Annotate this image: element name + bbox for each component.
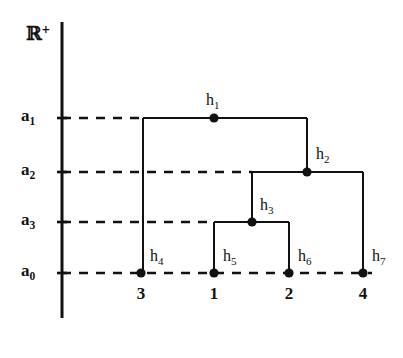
node-label-subscript: 6 [306, 255, 312, 267]
leaf-label-3: 3 [131, 285, 151, 302]
node-label-h1: h1 [206, 92, 220, 111]
node-label-subscript: 3 [268, 204, 274, 216]
node-dot-h3 [247, 217, 256, 226]
node-label-base: h [298, 247, 306, 264]
node-label-base: h [223, 247, 231, 264]
dendrogram-canvas [0, 0, 403, 358]
branch-lines [143, 118, 363, 273]
node-dot-h4 [136, 268, 145, 277]
node-dot-h7 [358, 268, 367, 277]
node-label-h3: h3 [260, 197, 274, 216]
node-label-base: h [150, 247, 158, 264]
level-label-subscript: 3 [30, 219, 36, 231]
level-label-subscript: 1 [30, 115, 36, 127]
leaf-label-2: 2 [279, 285, 299, 302]
node-label-h2: h2 [316, 146, 330, 165]
node-label-base: h [206, 91, 214, 108]
node-label-subscript: 4 [158, 255, 164, 267]
level-label-a3: a3 [21, 211, 35, 232]
level-label-subscript: 0 [30, 270, 36, 282]
node-label-subscript: 5 [231, 255, 237, 267]
level-label-base: a [21, 210, 30, 229]
level-label-a0: a0 [21, 262, 35, 283]
node-dot-h2 [302, 167, 311, 176]
node-label-h6: h6 [298, 248, 312, 267]
node-label-subscript: 1 [214, 99, 220, 111]
level-label-base: a [21, 160, 30, 179]
level-guide-lines [62, 118, 372, 273]
node-label-h7: h7 [372, 248, 386, 267]
node-label-subscript: 2 [324, 153, 330, 165]
leaf-label-4: 4 [353, 285, 373, 302]
node-label-h4: h4 [150, 248, 164, 267]
axis-title-superscript: + [41, 23, 50, 36]
node-label-base: h [316, 145, 324, 162]
level-label-a1: a1 [21, 107, 35, 128]
node-label-base: h [372, 247, 380, 264]
node-label-subscript: 7 [380, 255, 386, 267]
axis-title-symbol: ℝ [26, 22, 41, 44]
node-dot-h5 [209, 268, 218, 277]
node-dot-h6 [284, 268, 293, 277]
level-label-a2: a2 [21, 161, 35, 182]
node-dot-h1 [209, 113, 218, 122]
level-label-subscript: 2 [30, 169, 36, 181]
dendrogram-figure: ℝ+ a1a2a3a0 h1h2h3h4h5h6h7 3124 [0, 0, 403, 358]
node-label-h5: h5 [223, 248, 237, 267]
node-label-base: h [260, 196, 268, 213]
level-label-base: a [21, 261, 30, 280]
leaf-label-1: 1 [204, 285, 224, 302]
level-label-base: a [21, 106, 30, 125]
axis-title: ℝ+ [26, 24, 50, 43]
